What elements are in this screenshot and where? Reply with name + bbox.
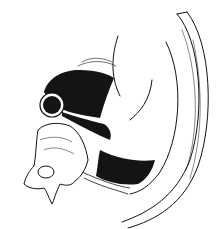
anatomical-illustration: [0, 0, 224, 229]
lower-dark-mass: [96, 150, 155, 185]
upper-organ: [113, 36, 152, 120]
vertebra: [24, 123, 88, 204]
curved-wall-band: [122, 12, 208, 228]
top-hatching: [78, 58, 116, 66]
vessel-lumen: [43, 96, 61, 114]
illustration-canvas: [0, 0, 224, 229]
